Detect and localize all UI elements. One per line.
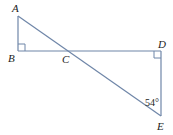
point-label-c: C xyxy=(62,53,70,65)
point-label-e: E xyxy=(156,120,164,132)
right-angle-marker-d xyxy=(154,51,161,58)
segment-ae xyxy=(18,16,161,116)
point-label-b: B xyxy=(8,52,15,64)
point-label-a: A xyxy=(11,2,19,14)
right-angle-marker-b xyxy=(18,44,25,51)
point-label-d: D xyxy=(157,38,166,50)
angle-label-e: 54° xyxy=(145,97,159,108)
geometry-diagram: A B C D E 54° xyxy=(0,0,173,135)
